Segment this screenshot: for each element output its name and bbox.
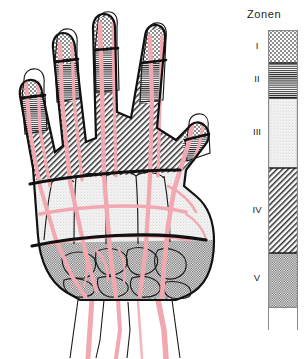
legend-title: Zonen <box>247 8 281 20</box>
legend-bar-tail <box>268 308 298 330</box>
swatch-zone-3 <box>268 98 298 168</box>
swatch-zone-2 <box>268 63 298 98</box>
swatch-zone-4 <box>268 168 298 253</box>
zone-label-4: IV <box>248 204 266 215</box>
swatch-zone-5 <box>268 253 298 308</box>
zone-label-1: I <box>248 40 266 51</box>
hand-zone-diagram <box>0 0 304 359</box>
legend-swatch-bar <box>268 30 298 308</box>
zone-label-3: III <box>248 126 266 137</box>
zone-label-2: II <box>248 73 266 84</box>
zone-label-5: V <box>248 272 266 283</box>
swatch-zone-1 <box>268 30 298 63</box>
